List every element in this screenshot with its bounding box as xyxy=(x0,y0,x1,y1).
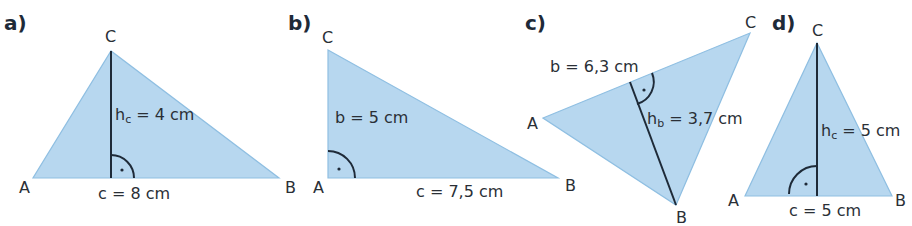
right-angle-dot-icon xyxy=(120,168,123,171)
vertex-b-d: B xyxy=(895,191,906,210)
triangle-d-shape xyxy=(745,43,892,196)
side-c-label-d: c = 5 cm xyxy=(789,201,861,220)
triangle-b: b) C A B b = 5 cm c = 7,5 cm xyxy=(288,11,576,201)
vertex-c-b: C xyxy=(322,28,333,47)
side-c-label-a: c = 8 cm xyxy=(98,184,170,203)
triangle-c: c) C A B b = 6,3 cm hb = 3,7 cm xyxy=(525,11,756,226)
label-part-a: a) xyxy=(4,11,27,35)
right-angle-dot-icon xyxy=(337,167,340,170)
vertex-a-c: A xyxy=(527,114,538,133)
vertex-c-a: C xyxy=(105,27,116,46)
vertex-c-d: C xyxy=(812,21,823,40)
vertex-b-c: B xyxy=(676,208,687,226)
label-part-d: d) xyxy=(772,11,795,35)
vertex-b-a: B xyxy=(285,178,296,197)
vertex-b-b: B xyxy=(565,176,576,195)
vertex-a-d: A xyxy=(728,191,739,210)
triangle-figure: a) C A B c = 8 cm hc = 4 cm b) C A B b =… xyxy=(0,0,912,226)
right-angle-dot-icon xyxy=(642,88,645,91)
vertex-a-a: A xyxy=(19,178,30,197)
side-c-label-b: c = 7,5 cm xyxy=(416,182,503,201)
triangle-a: a) C A B c = 8 cm hc = 4 cm xyxy=(4,11,296,203)
label-part-b: b) xyxy=(288,11,311,35)
right-angle-dot-icon xyxy=(804,182,807,185)
side-b-label-b: b = 5 cm xyxy=(335,108,408,127)
triangle-d: d) C A B c = 5 cm hc = 5 cm xyxy=(728,11,906,220)
vertex-a-b: A xyxy=(313,178,324,197)
vertex-c-c: C xyxy=(745,13,756,32)
label-part-c: c) xyxy=(525,11,546,35)
side-b-label-c: b = 6,3 cm xyxy=(550,57,639,76)
